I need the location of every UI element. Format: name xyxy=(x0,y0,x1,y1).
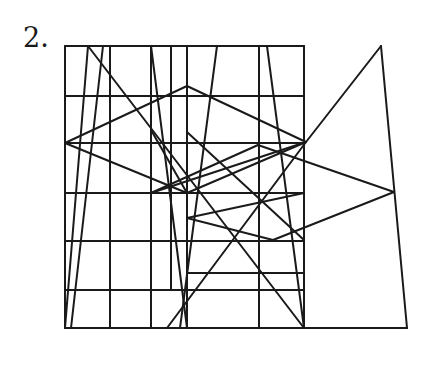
line-segment xyxy=(187,218,273,240)
geometry-line-diagram xyxy=(0,0,431,368)
line-segments xyxy=(65,46,407,328)
line-segment xyxy=(306,46,381,142)
line-segment xyxy=(273,192,394,240)
line-segment xyxy=(381,46,407,328)
